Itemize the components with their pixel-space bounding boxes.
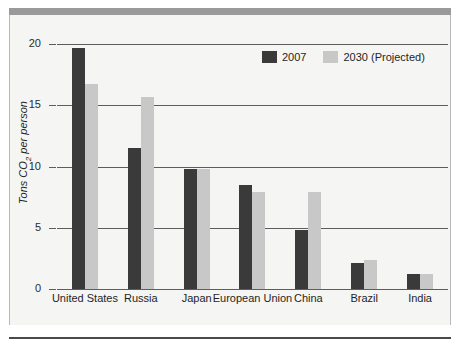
chart-figure: 05101520 Tons CO2 per person United Stat… (0, 0, 460, 348)
bar (420, 274, 433, 289)
bar (407, 274, 420, 289)
bar (128, 148, 141, 289)
y-tick-mark-20 (49, 44, 56, 45)
y-axis-title-suffix: per person (17, 101, 29, 157)
gridline-10 (57, 167, 448, 168)
plot-area: 05101520 Tons CO2 per person United Stat… (0, 0, 460, 348)
y-tick-mark-10 (49, 167, 56, 168)
legend-item: 2007 (262, 51, 306, 63)
bar (141, 97, 154, 289)
bar (184, 169, 197, 289)
y-tick-mark-15 (49, 105, 56, 106)
y-tick-mark-5 (49, 228, 56, 229)
bar (351, 263, 364, 289)
bar (72, 48, 85, 289)
y-axis-title: Tons CO2 per person (17, 88, 32, 218)
bar (85, 84, 98, 289)
legend-label: 2007 (282, 51, 306, 63)
legend-label: 2030 (Projected) (343, 51, 424, 63)
gridline-20 (57, 44, 448, 45)
y-axis-title-subscript: 2 (24, 157, 33, 161)
legend-item: 2030 (Projected) (323, 51, 424, 63)
legend-swatch-icon (323, 51, 338, 63)
x-axis-label: India (360, 292, 460, 304)
bar (295, 230, 308, 289)
bar (308, 192, 321, 289)
y-axis-title-prefix: Tons CO (17, 161, 29, 204)
y-tick-label: 5 (17, 222, 41, 233)
bar (252, 192, 265, 289)
gridline-15 (57, 105, 448, 106)
y-tick-label: 20 (17, 38, 41, 49)
x-axis-baseline (57, 289, 448, 290)
legend-swatch-icon (262, 51, 277, 63)
chart-legend: 20072030 (Projected) (262, 51, 425, 63)
bar (364, 260, 377, 289)
bar (239, 185, 252, 289)
y-tick-mark-0 (49, 289, 56, 290)
bar (197, 169, 210, 289)
